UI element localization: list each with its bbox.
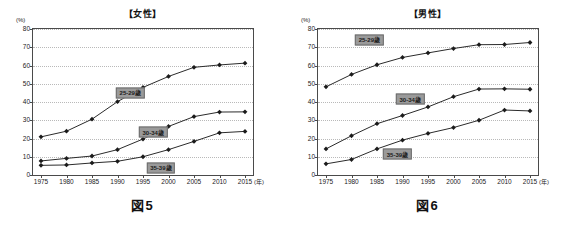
- figure-6: 【男性】 (%) 0102030405060708019751980198519…: [285, 0, 570, 228]
- x-tick-label: 2000: [446, 179, 460, 186]
- data-point-marker: [217, 63, 222, 68]
- data-point-marker: [166, 147, 171, 152]
- y-tick-label: 60: [308, 62, 315, 69]
- data-point-marker: [375, 62, 380, 67]
- y-tick-label: 80: [308, 26, 315, 33]
- figure-caption-5: 図5: [0, 195, 285, 214]
- data-point-marker: [90, 161, 95, 166]
- data-point-marker: [477, 118, 482, 123]
- chart-title-male: 【男性】: [285, 7, 570, 20]
- data-point-marker: [528, 40, 533, 45]
- data-point-marker: [477, 42, 482, 47]
- x-tick-label: 2000: [161, 179, 175, 186]
- data-point-marker: [528, 87, 533, 92]
- x-tick-label: 2015: [523, 179, 537, 186]
- data-point-marker: [451, 125, 456, 130]
- data-point-marker: [426, 51, 431, 56]
- y-tick-mark: [315, 175, 318, 176]
- data-point-marker: [39, 134, 44, 139]
- x-tick-label: 1985: [370, 179, 384, 186]
- series-label-35-39歳: 35-39歳: [383, 149, 411, 160]
- data-point-marker: [477, 87, 482, 92]
- series-layer: [318, 29, 538, 175]
- data-point-marker: [115, 147, 120, 152]
- data-point-marker: [64, 129, 69, 134]
- series-label-35-39歳: 35-39歳: [147, 162, 175, 173]
- chart-title-female: 【女性】: [0, 7, 285, 20]
- series-label-30-34歳: 30-34歳: [139, 127, 167, 138]
- y-tick-label: 40: [308, 99, 315, 106]
- y-tick-label: 30: [308, 117, 315, 124]
- y-tick-label: 20: [308, 135, 315, 142]
- data-point-marker: [243, 61, 248, 66]
- y-tick-label: 0: [311, 172, 315, 179]
- y-tick-label: 10: [23, 154, 30, 161]
- y-tick-label: 0: [26, 172, 30, 179]
- x-tick-label: 2005: [472, 179, 486, 186]
- y-tick-label: 40: [23, 99, 30, 106]
- x-tick-label: 1990: [110, 179, 124, 186]
- y-tick-label: 80: [23, 26, 30, 33]
- x-axis-unit-female: (年): [254, 177, 264, 186]
- data-point-marker: [192, 139, 197, 144]
- data-point-marker: [115, 159, 120, 164]
- x-tick-label: 1995: [421, 179, 435, 186]
- x-axis-unit-male: (年): [539, 177, 549, 186]
- x-tick-label: 2005: [187, 179, 201, 186]
- data-point-marker: [39, 159, 44, 164]
- data-point-marker: [64, 163, 69, 168]
- y-tick-label: 10: [308, 154, 315, 161]
- data-point-marker: [400, 113, 405, 118]
- data-point-marker: [192, 114, 197, 119]
- y-axis-unit-female: (%): [16, 17, 25, 23]
- data-point-marker: [451, 94, 456, 99]
- data-point-marker: [426, 105, 431, 110]
- x-tick-label: 2015: [238, 179, 252, 186]
- data-point-marker: [166, 74, 171, 79]
- series-label-25-29歳: 25-29歳: [355, 34, 383, 45]
- data-point-marker: [64, 156, 69, 161]
- data-point-marker: [502, 108, 507, 113]
- x-tick-label: 1995: [136, 179, 150, 186]
- data-point-marker: [324, 147, 329, 152]
- y-tick-label: 20: [23, 135, 30, 142]
- data-point-marker: [243, 109, 248, 114]
- data-point-marker: [90, 154, 95, 159]
- y-axis-unit-male: (%): [301, 17, 310, 23]
- x-tick-label: 1975: [319, 179, 333, 186]
- data-point-marker: [217, 130, 222, 135]
- data-point-marker: [375, 121, 380, 126]
- plot-area-female: 0102030405060708019751980198519901995200…: [32, 28, 254, 176]
- figure-5: 【女性】 (%) 0102030405060708019751980198519…: [0, 0, 285, 228]
- x-tick-label: 1980: [59, 179, 73, 186]
- series-label-30-34歳: 30-34歳: [396, 94, 424, 105]
- x-tick-label: 1975: [34, 179, 48, 186]
- figure-sheet: 【女性】 (%) 0102030405060708019751980198519…: [0, 0, 570, 228]
- y-tick-label: 30: [23, 117, 30, 124]
- series-layer: [33, 29, 253, 175]
- data-point-marker: [243, 129, 248, 134]
- data-point-marker: [451, 46, 456, 51]
- data-point-marker: [502, 86, 507, 91]
- data-point-marker: [349, 133, 354, 138]
- data-point-marker: [426, 131, 431, 136]
- x-tick-label: 1990: [395, 179, 409, 186]
- x-tick-label: 2010: [497, 179, 511, 186]
- data-point-marker: [528, 109, 533, 114]
- x-tick-label: 1985: [85, 179, 99, 186]
- data-point-marker: [141, 154, 146, 159]
- series-line: [326, 43, 530, 87]
- figure-caption-6: 図6: [285, 195, 570, 214]
- y-tick-mark: [30, 175, 33, 176]
- data-point-marker: [400, 55, 405, 60]
- data-point-marker: [349, 157, 354, 162]
- y-tick-label: 50: [308, 81, 315, 88]
- y-tick-label: 50: [23, 81, 30, 88]
- data-point-marker: [375, 147, 380, 152]
- y-tick-label: 70: [308, 44, 315, 51]
- data-point-marker: [39, 163, 44, 168]
- y-tick-label: 70: [23, 44, 30, 51]
- series-line: [326, 110, 530, 164]
- data-point-marker: [324, 84, 329, 89]
- plot-area-male: 0102030405060708019751980198519901995200…: [317, 28, 539, 176]
